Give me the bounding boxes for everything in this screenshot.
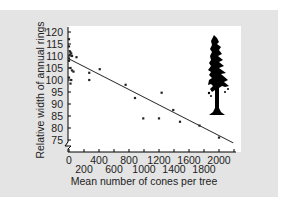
x-tick-label: 1800 [192, 163, 216, 175]
data-point [179, 121, 181, 123]
data-point [70, 79, 72, 81]
trendline [69, 59, 233, 143]
data-point [72, 71, 74, 73]
data-point [75, 56, 77, 58]
data-point [134, 97, 136, 99]
x-tick-label: 0 [66, 154, 72, 166]
y-axis-title: Relative width of annual rings [34, 21, 46, 158]
regression-line [69, 59, 233, 143]
y-tick-label: 80 [51, 122, 63, 134]
data-point [161, 92, 163, 94]
data-point [71, 55, 73, 57]
y-tick-label: 115 [46, 38, 63, 50]
data-point [69, 54, 71, 56]
axis-break-icon [65, 142, 71, 152]
data-point [88, 72, 90, 74]
data-point [69, 67, 71, 69]
y-tick-label: 120 [45, 26, 63, 38]
y-tick-label: 90 [51, 98, 63, 110]
data-point [198, 125, 200, 127]
data-point [68, 60, 70, 62]
x-tick-label: 1000 [132, 163, 156, 175]
y-tick-label: 85 [51, 110, 63, 122]
x-tick-label: 600 [105, 163, 123, 175]
data-point [68, 57, 70, 59]
y-tick-label: 100 [45, 74, 63, 86]
data-point [142, 117, 144, 119]
data-point [158, 117, 160, 119]
x-tick-label: 200 [75, 163, 93, 175]
data-point [99, 68, 101, 70]
x-axis-title: Mean number of cones per tree [71, 175, 218, 187]
data-point [125, 84, 127, 86]
tree-icon [208, 35, 229, 115]
x-axis-ticks: 0400800120016002000200600100014001800 [66, 149, 234, 175]
data-point [88, 79, 90, 81]
y-tick-label: 75 [51, 134, 63, 146]
y-tick-label: 105 [45, 62, 63, 74]
data-point [68, 38, 70, 40]
data-point [69, 83, 71, 85]
data-points [68, 38, 220, 139]
y-tick-label: 110 [46, 50, 63, 62]
y-axis-ticks: 7580859095100105110115120 [45, 26, 71, 146]
data-point [172, 109, 174, 111]
scatter-chart: 7580859095100105110115120 04008001200160… [0, 0, 292, 205]
y-tick-label: 95 [51, 86, 63, 98]
data-point [68, 45, 70, 47]
data-point [218, 137, 220, 139]
data-point [68, 77, 70, 79]
x-tick-label: 1400 [162, 163, 186, 175]
